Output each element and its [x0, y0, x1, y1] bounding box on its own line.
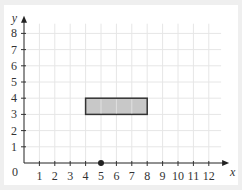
x-tick-label: 12 — [203, 169, 215, 183]
y-tick-label: 2 — [11, 124, 17, 138]
grid-lines — [24, 24, 221, 163]
x-tick-label: 6 — [113, 169, 119, 183]
y-axis-label: y — [11, 11, 18, 25]
x-tick-label: 3 — [67, 169, 73, 183]
y-axis-arrow-icon — [21, 16, 27, 23]
x-tick-label: 8 — [144, 169, 150, 183]
x-tick-label: 9 — [160, 169, 166, 183]
data-point — [98, 160, 104, 166]
x-tick-label: 2 — [52, 169, 58, 183]
x-axis-arrow-icon — [222, 160, 229, 166]
x-tick-label: 5 — [98, 169, 104, 183]
y-tick-label: 3 — [11, 107, 17, 121]
y-tick-label: 1 — [11, 140, 17, 154]
y-tick-label: 4 — [11, 91, 17, 105]
x-tick-label: 11 — [188, 169, 200, 183]
y-tick-label: 7 — [11, 43, 17, 57]
x-tick-label: 7 — [129, 169, 135, 183]
y-tick-label: 8 — [11, 26, 17, 40]
origin-label: 0 — [12, 165, 18, 179]
x-axis-label: x — [229, 165, 236, 179]
x-tick-label: 4 — [83, 169, 89, 183]
x-tick-label: 10 — [172, 169, 184, 183]
coordinate-plane: 123456789101112123456780xy — [0, 0, 242, 190]
y-tick-label: 5 — [11, 75, 17, 89]
x-tick-label: 1 — [36, 169, 42, 183]
y-tick-label: 6 — [11, 59, 17, 73]
